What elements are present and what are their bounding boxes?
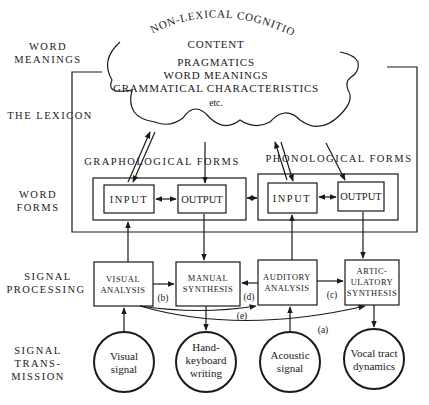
route-d-label: (d) <box>243 292 254 303</box>
phonological-forms-label: PHONOLOGICAL FORMS <box>265 153 412 164</box>
graph-input-label: INPUT <box>110 194 148 205</box>
acoustic-signal-1: Acoustic <box>270 349 309 361</box>
route-e <box>140 306 256 311</box>
artic-synthesis-1: ARTIC- <box>357 266 388 276</box>
auditory-analysis-2: ANALYSIS <box>264 283 309 293</box>
graphological-forms-label: GRAPHOLOGICAL FORMS <box>84 156 240 167</box>
manual-synthesis-1: MANUAL <box>188 273 228 283</box>
level-word-meanings-1: WORD <box>29 41 67 52</box>
cloud-etc: etc. <box>209 98 222 108</box>
hand-keyboard-2: keyboard <box>186 354 227 366</box>
manual-synthesis-2: SYNTHESIS <box>183 284 233 294</box>
route-a <box>140 306 365 321</box>
phon-output-label: OUTPUT <box>340 191 382 202</box>
level-signal-transmission-3: MISSION <box>11 371 65 382</box>
route-b-label: (b) <box>157 293 168 304</box>
route-e-label: (e) <box>237 311 248 322</box>
graph-output-label: OUTPUT <box>181 194 223 205</box>
level-signal-processing-2: PROCESSING <box>6 284 85 295</box>
auditory-analysis-1: AUDITORY <box>263 272 311 282</box>
lexicon-diagram: NON-LEXICAL COGNITION CONTENT PRAGMATICS… <box>0 0 429 405</box>
visual-signal-circle <box>94 332 154 392</box>
visual-analysis-2: ANALYSIS <box>100 285 145 295</box>
vocal-tract-circle <box>344 329 404 389</box>
level-word-forms-1: WORD <box>19 189 57 200</box>
level-word-meanings-2: MEANINGS <box>14 54 81 65</box>
acoustic-signal-2: signal <box>277 362 303 374</box>
artic-synthesis-3: SYNTHESIS <box>347 288 397 298</box>
non-lexical-cognition-title: NON-LEXICAL COGNITION <box>0 0 297 38</box>
visual-analysis-box <box>94 262 153 306</box>
level-signal-transmission-1: SIGNAL <box>14 345 62 356</box>
level-word-forms-2: FORMS <box>16 202 59 213</box>
cloud-word-meanings: WORD MEANINGS <box>164 69 269 81</box>
level-signal-transmission-2: TRANS- <box>15 358 62 369</box>
artic-synthesis-2: ULATORY <box>351 277 394 287</box>
visual-signal-1: Visual <box>110 350 138 362</box>
visual-analysis-1: VISUAL <box>106 274 140 284</box>
route-a-label: (a) <box>318 325 329 336</box>
vocal-tract-2: dynamics <box>353 360 395 372</box>
phon-input-label: INPUT <box>273 193 311 204</box>
hand-keyboard-3: writing <box>190 367 222 379</box>
visual-signal-2: signal <box>111 363 137 375</box>
hand-keyboard-1: Hand- <box>192 341 220 353</box>
level-signal-processing-1: SIGNAL <box>24 271 72 282</box>
level-lexicon: THE LEXICON <box>7 110 93 121</box>
vocal-tract-1: Vocal tract <box>350 347 397 359</box>
route-c-label: (c) <box>327 290 338 301</box>
cloud-content: CONTENT <box>188 38 245 50</box>
cloud-pragmatics: PRAGMATICS <box>177 56 255 68</box>
cloud-grammatical: GRAMMATICAL CHARACTERISTICS <box>113 82 319 94</box>
